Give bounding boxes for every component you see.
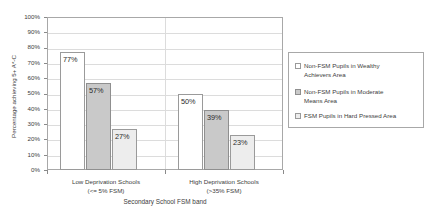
chart-figure: 0%10%20%30%40%50%60%70%80%90%100% Percen… [0,0,432,218]
x-axis-tick-mark [47,170,48,174]
legend-item[interactable]: FSM Pupils in Hard Pressed Area [295,112,396,121]
legend-item[interactable]: Non-FSM Pupils in WealthyAchievers Area [295,62,380,79]
x-axis-tick-mark [283,170,284,174]
bar-value-label: 39% [207,114,222,122]
x-axis-group-label-line: (>35% FSM) [165,187,283,196]
bar-value-label: 77% [63,56,78,64]
x-axis-group-label-line: High Deprivation Schools [165,178,283,187]
bar [60,52,85,170]
x-axis-title: Secondary School FSM band [47,198,283,205]
y-axis-title: Percentage achieving 5+ A*-C [10,32,17,162]
chart-legend: Non-FSM Pupils in WealthyAchievers AreaN… [288,52,424,128]
legend-swatch-icon [295,63,301,69]
bar-value-label: 27% [115,133,130,141]
legend-item-label-line: Non-FSM Pupils in Moderate [304,88,383,97]
legend-item-label: Non-FSM Pupils in WealthyAchievers Area [304,62,380,79]
legend-item[interactable]: Non-FSM Pupils in ModerateMeans Area [295,88,383,105]
legend-item-label: FSM Pupils in Hard Pressed Area [304,112,396,121]
x-axis-group-label-line: (<= 5% FSM) [47,187,165,196]
y-axis-title-wrap: Percentage achieving 5+ A*-C [0,0,45,218]
bar-value-label: 23% [233,139,248,147]
legend-swatch-icon [295,89,301,95]
legend-item-label-line: FSM Pupils in Hard Pressed Area [304,112,396,121]
legend-item-label-line: Achievers Area [304,71,380,80]
x-axis-tick-mark [165,170,166,174]
legend-item-label-line: Non-FSM Pupils in Wealthy [304,62,380,71]
bars-layer: 77%57%27%50%39%23% [47,17,283,170]
legend-swatch-icon [295,113,301,119]
x-axis-group-label: High Deprivation Schools(>35% FSM) [165,178,283,195]
bar [86,83,111,170]
legend-item-label-line: Means Area [304,97,383,106]
bar-value-label: 57% [89,87,104,95]
x-axis-group-label: Low Deprivation Schools(<= 5% FSM) [47,178,165,195]
x-axis-group-label-line: Low Deprivation Schools [47,178,165,187]
bar-value-label: 50% [181,98,196,106]
legend-item-label: Non-FSM Pupils in ModerateMeans Area [304,88,383,105]
